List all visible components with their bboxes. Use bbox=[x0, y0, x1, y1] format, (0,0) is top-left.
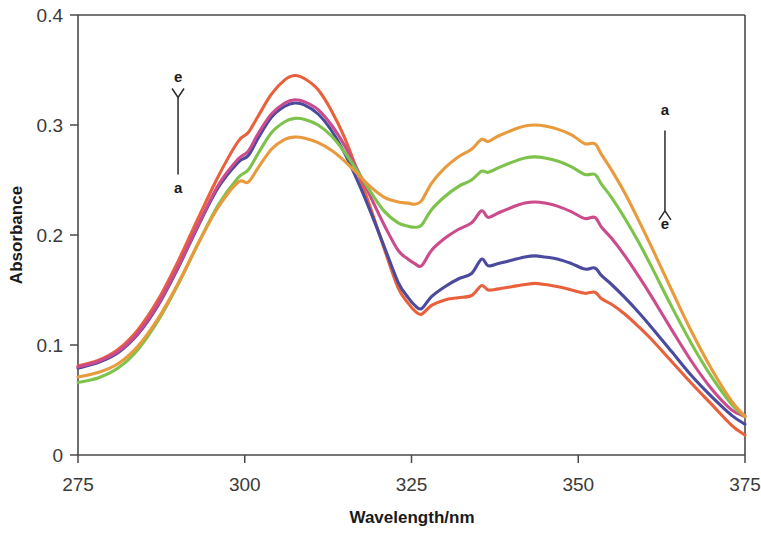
left-arrow-annotation: e a bbox=[172, 68, 184, 196]
x-tick-label: 375 bbox=[729, 474, 761, 495]
y-tick-label: 0 bbox=[52, 445, 63, 466]
y-axis-title: Absorbance bbox=[7, 186, 26, 284]
left-arrow-head-icon bbox=[172, 89, 184, 98]
x-tick-label: 300 bbox=[229, 474, 261, 495]
x-tick-label: 350 bbox=[562, 474, 594, 495]
right-arrow-annotation: a e bbox=[659, 101, 671, 232]
y-tick-label: 0.3 bbox=[37, 115, 63, 136]
x-tick-label: 275 bbox=[62, 474, 94, 495]
x-axis-ticks: 275300325350375 bbox=[62, 455, 761, 495]
x-tick-label: 325 bbox=[396, 474, 428, 495]
spectrum-figure: 00.10.20.30.4 275300325350375 e a a e Ab… bbox=[0, 0, 761, 535]
right-arrow-bottom-label: e bbox=[661, 215, 669, 232]
absorbance-spectrum-chart: 00.10.20.30.4 275300325350375 e a a e Ab… bbox=[0, 0, 761, 535]
y-axis-ticks: 00.10.20.30.4 bbox=[37, 5, 78, 466]
y-tick-label: 0.4 bbox=[37, 5, 64, 26]
left-arrow-bottom-label: a bbox=[174, 179, 183, 196]
right-arrow-top-label: a bbox=[661, 101, 670, 118]
y-tick-label: 0.1 bbox=[37, 335, 63, 356]
left-arrow-top-label: e bbox=[174, 68, 182, 85]
y-tick-label: 0.2 bbox=[37, 225, 63, 246]
x-axis-title: Wavelength/nm bbox=[350, 508, 475, 527]
